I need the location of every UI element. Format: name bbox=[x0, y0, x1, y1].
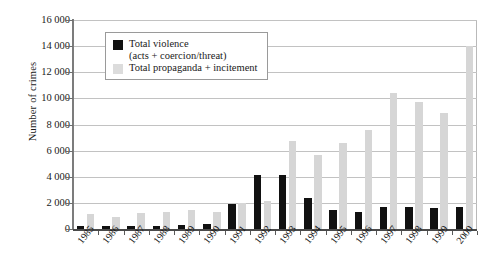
x-axis-tick-label: 1994 bbox=[302, 223, 323, 246]
x-axis-tick-label: 2000 bbox=[454, 223, 475, 246]
legend-item-violence: Total violence bbox=[113, 38, 258, 50]
x-axis-tick-label: 1998 bbox=[403, 223, 424, 246]
x-axis-tick-label: 1990 bbox=[201, 223, 222, 246]
legend-label-propaganda: Total propaganda + incitement bbox=[129, 62, 258, 74]
x-axis-tick-label: 1992 bbox=[252, 223, 273, 246]
x-axis-tick-label: 1991 bbox=[227, 223, 248, 246]
x-axis-tick-label: 1986 bbox=[100, 223, 121, 246]
x-axis-tick-label: 1989 bbox=[176, 223, 197, 246]
x-axis-tick-label: 1997 bbox=[378, 223, 399, 246]
x-axis-tick-label: 1985 bbox=[75, 223, 96, 246]
x-axis-tick-label: 1988 bbox=[151, 223, 172, 246]
x-axis-tick-label: 1987 bbox=[126, 223, 147, 246]
x-axis-tick-label: 1999 bbox=[429, 223, 450, 246]
legend-label-violence: Total violence bbox=[129, 38, 189, 50]
legend-item-propaganda: Total propaganda + incitement bbox=[113, 62, 258, 74]
legend-swatch-violence-icon bbox=[113, 40, 123, 50]
bar-chart: Number of crimes 16 00014 00012 00010 00… bbox=[0, 0, 489, 275]
x-axis-tick-label: 1996 bbox=[353, 223, 374, 246]
x-axis-tick-label: 1993 bbox=[277, 223, 298, 246]
chart-legend: Total violence (acts + coercion/threat) … bbox=[105, 32, 268, 80]
x-axis-tick-label: 1995 bbox=[328, 223, 349, 246]
legend-swatch-propaganda-icon bbox=[113, 64, 123, 74]
legend-sublabel-violence: (acts + coercion/threat) bbox=[113, 50, 258, 62]
